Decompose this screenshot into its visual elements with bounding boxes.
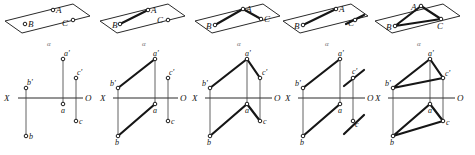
point-b-front-label: b' — [110, 79, 116, 88]
axis-label-X: X — [284, 93, 291, 103]
front-path-b-a-c — [210, 59, 260, 88]
point-A-label: A — [338, 4, 345, 14]
plane-outline — [5, 4, 90, 33]
top-edge-b-a — [118, 104, 155, 136]
point-B-marker — [118, 22, 122, 26]
plane-alpha-label: α — [417, 40, 421, 48]
axis-label-X: X — [99, 93, 106, 103]
point-C-label: C — [264, 14, 271, 24]
stage-4-projection: X O b' b a' a c' c — [284, 49, 374, 147]
point-A-label: A — [55, 5, 62, 15]
point-b-front-label: b' — [27, 78, 33, 87]
point-b-front-marker — [116, 86, 120, 90]
plane-alpha-label: α — [325, 40, 329, 48]
point-C-label: C — [348, 18, 355, 28]
point-c-top-marker — [74, 119, 78, 123]
stage-5-projection: X O b' b a' a c' c — [374, 49, 464, 147]
triangle-ABC — [395, 6, 441, 26]
point-a-top-label: a — [428, 106, 432, 115]
point-b-front-label: b' — [202, 79, 208, 88]
point-a-top-label: a — [153, 106, 157, 115]
point-b-front-label: b' — [295, 79, 301, 88]
stage-1-projection: X O b' b a' a c' c — [3, 49, 92, 141]
point-c-top-label: c — [446, 118, 450, 127]
stage-2-pictorial: A B C α — [100, 4, 185, 48]
axis-label-X: X — [374, 93, 381, 103]
point-b-top-label: b — [29, 132, 33, 141]
point-A-label: A — [245, 4, 252, 14]
point-b-top-label: b — [207, 138, 211, 147]
point-c-top-label: c — [263, 117, 267, 126]
point-A-marker — [51, 8, 55, 12]
point-a-top-label: a — [61, 106, 65, 115]
point-a-front-label: a' — [64, 49, 70, 58]
point-c-front-label: c' — [262, 68, 268, 77]
point-b-top-label: b — [115, 138, 119, 147]
point-c-front-marker — [351, 76, 355, 80]
top-path-b-a-c — [210, 104, 260, 136]
point-a-front-label: a' — [338, 49, 344, 58]
plane-alpha-label: α — [47, 40, 51, 48]
point-c-front-label: c' — [352, 67, 358, 76]
point-A-label: A — [150, 5, 157, 15]
stage-2-projection: X O b' b a' a c' c — [99, 49, 187, 147]
stage-3-pictorial: A B C α — [195, 4, 280, 48]
point-b-top-label: b — [390, 138, 394, 147]
stage-1-pictorial: A B C α — [5, 4, 90, 48]
front-triangle-b-a-c — [393, 59, 443, 88]
plane-alpha-label: α — [142, 40, 146, 48]
stage-5-pictorial: A B C α — [375, 2, 460, 48]
point-A-label: A — [410, 2, 417, 12]
point-A-marker — [334, 7, 338, 11]
point-C-label: C — [437, 21, 444, 31]
point-B-label: B — [386, 22, 392, 32]
point-a-front-label: a' — [428, 49, 434, 58]
axis-label-X: X — [191, 93, 198, 103]
point-b-front-label: b' — [385, 79, 391, 88]
point-B-marker — [213, 23, 217, 27]
point-A-marker — [241, 7, 245, 11]
point-c-top-marker — [166, 119, 170, 123]
point-B-label: B — [206, 21, 212, 31]
point-A-marker — [419, 4, 423, 8]
point-A-marker — [146, 8, 150, 12]
point-B-label: B — [294, 21, 300, 31]
point-B-label: B — [112, 20, 118, 30]
point-C-marker — [166, 18, 170, 22]
axis-label-O: O — [367, 93, 374, 103]
point-b-front-marker — [301, 86, 305, 90]
stage-3-projection: X O b' b a' a c' c — [191, 49, 281, 147]
point-c-top-label: c — [171, 117, 175, 126]
point-c-top-label: c — [79, 117, 83, 126]
point-c-top-label: c — [355, 120, 359, 129]
point-a-top-label: a — [338, 106, 342, 115]
axis-label-X: X — [3, 93, 10, 103]
axis-label-O: O — [85, 93, 92, 103]
front-edge-b-a — [118, 59, 155, 88]
point-b-top-marker — [24, 134, 28, 138]
descriptive-geometry-figure: A B C α A B C α A B C α A B — [0, 0, 475, 155]
top-edge-b-a — [303, 104, 340, 136]
axis-label-O: O — [274, 93, 281, 103]
point-b-front-marker — [208, 86, 212, 90]
axis-label-O: O — [180, 93, 187, 103]
point-c-front-label: c' — [445, 69, 451, 78]
point-C-marker — [259, 17, 263, 21]
point-a-top-label: a — [245, 106, 249, 115]
point-C-label: C — [157, 15, 164, 25]
plane-alpha-label: α — [237, 40, 241, 48]
point-c-front-label: c' — [77, 68, 83, 77]
point-a-front-label: a' — [153, 49, 159, 58]
stroke-through-c-top — [344, 115, 364, 134]
point-C-label: C — [62, 18, 69, 28]
point-b-top-label: b — [300, 138, 304, 147]
point-a-front-label: a' — [245, 49, 251, 58]
stage-4-pictorial: A B C α — [283, 4, 368, 48]
top-triangle-b-a-c — [393, 104, 443, 136]
axis-label-O: O — [457, 93, 464, 103]
point-C-marker — [71, 18, 75, 22]
point-b-front-marker — [391, 86, 395, 90]
point-c-top-marker — [441, 119, 445, 123]
point-B-marker — [23, 22, 27, 26]
point-B-marker — [393, 24, 397, 28]
